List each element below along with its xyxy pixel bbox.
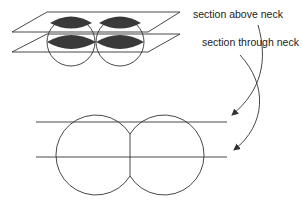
label-section-above-neck: section above neck [193,9,283,20]
sphere-section-diagram [0,0,302,204]
arrow-section-through-neck [234,55,260,150]
right-circle [130,115,204,195]
upper-section-plane [12,12,180,32]
lower-right-lens [96,35,144,49]
bottom-side-view [36,115,227,195]
lower-section-lenses [47,35,144,49]
label-section-through-neck: section through neck [202,37,299,48]
upper-section-lenses [50,17,141,29]
lower-left-lens [47,35,96,49]
left-circle [56,115,130,195]
top-3d-view [12,12,180,66]
